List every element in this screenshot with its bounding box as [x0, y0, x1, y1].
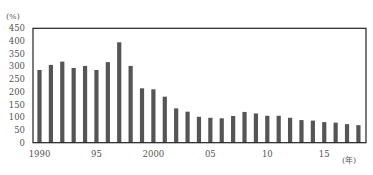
- x-tick-label: 15: [319, 149, 330, 159]
- x-axis-ticks: 1990952000051015: [29, 149, 330, 159]
- y-tick-label: 300: [9, 61, 25, 71]
- bar-2013: [299, 120, 303, 143]
- y-tick-label: 150: [9, 100, 25, 110]
- bar-2009: [254, 113, 258, 142]
- bar-2014: [311, 121, 315, 143]
- y-tick-label: 400: [9, 36, 25, 46]
- bar-1999: [140, 88, 144, 142]
- bar-2007: [231, 116, 235, 143]
- bar-1992: [60, 62, 64, 143]
- bar-1998: [129, 66, 133, 143]
- bar-1996: [106, 62, 110, 143]
- x-tick-label: 10: [262, 149, 273, 159]
- bar-1994: [83, 66, 87, 143]
- bar-1991: [49, 65, 53, 143]
- bar-2015: [322, 122, 326, 143]
- x-tick-label: 05: [205, 149, 216, 159]
- x-tick-label: 1990: [29, 149, 51, 159]
- bar-2001: [163, 97, 167, 143]
- y-axis-unit-label: (%): [6, 12, 20, 21]
- bar-chart: (%) 050100150200250300350400450 19909520…: [0, 0, 373, 175]
- bar-2004: [197, 117, 201, 143]
- x-axis-unit-label: (年): [342, 155, 356, 165]
- bar-2016: [334, 123, 338, 143]
- y-tick-label: 450: [9, 23, 25, 33]
- bar-2000: [151, 89, 155, 142]
- bar-2012: [288, 118, 292, 143]
- bar-2010: [265, 116, 269, 143]
- y-tick-label: 250: [9, 74, 25, 84]
- bar-1993: [72, 68, 76, 143]
- x-tick-label: 95: [91, 149, 102, 159]
- bar-2011: [277, 116, 281, 143]
- bar-1995: [94, 70, 98, 143]
- bar-2002: [174, 108, 178, 142]
- bar-1997: [117, 42, 121, 142]
- y-tick-label: 200: [9, 87, 25, 97]
- bar-2005: [208, 118, 212, 143]
- y-axis-ticks: 050100150200250300350400450: [9, 23, 25, 147]
- bar-2017: [345, 124, 349, 143]
- bar-2018: [356, 125, 360, 143]
- bars: [37, 42, 360, 142]
- y-tick-label: 0: [20, 138, 25, 148]
- x-tick-label: 2000: [143, 149, 165, 159]
- bar-2006: [220, 118, 224, 142]
- y-tick-label: 100: [9, 112, 25, 122]
- bar-2003: [185, 112, 189, 143]
- y-tick-label: 350: [9, 49, 25, 59]
- bar-1990: [37, 70, 41, 143]
- y-tick-label: 50: [14, 125, 25, 135]
- bar-2008: [242, 112, 246, 143]
